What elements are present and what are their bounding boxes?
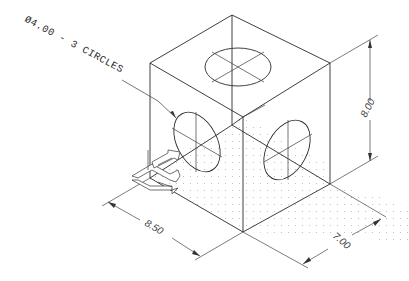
dimension-width-text: 8.50 (143, 217, 166, 236)
leader-text: Ø4.00 - 3 CIRCLES (23, 14, 126, 76)
dimension-height: 8.00 (330, 35, 378, 184)
leader-note: Ø4.00 - 3 CIRCLES (23, 14, 176, 118)
cad-drawing: Ø4.00 - 3 CIRCLES 8.00 8.50 7.00 (0, 0, 409, 281)
dimension-height-text: 8.00 (358, 96, 377, 119)
hole-top (205, 48, 271, 86)
